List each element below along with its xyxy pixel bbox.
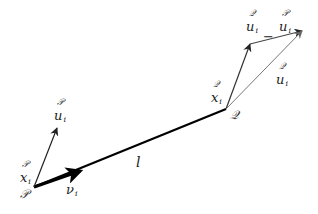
superscript: 𝒫 [20,160,31,169]
point-p-label: 𝒫 [20,187,29,201]
label-v-i: νi [66,181,77,198]
label-q-u-i: 𝒬 ui [276,62,288,88]
label-difference: 𝒬 ui − 𝒫 ui [246,9,291,43]
vector-q-u-i [226,44,250,109]
point-q-label: 𝒬 [230,108,239,122]
label-q-x-i: 𝒬 xi [211,80,222,106]
label-p-x-i: 𝒫 xi [20,160,31,186]
label-p-u-i: 𝒫 ui [54,98,66,124]
vector-diagram: 𝒫 𝒫 xi 𝒫 ui νi l 𝒬 𝒬 xi 𝒬 ui − [0,0,318,214]
label-l: l [136,155,140,169]
